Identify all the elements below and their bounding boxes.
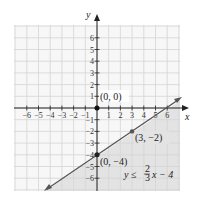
x-tick-label: 2 — [118, 111, 122, 120]
y-tick-label: 1 — [90, 92, 94, 101]
eq-denominator: 3 — [145, 172, 150, 183]
y-axis-label: y — [85, 9, 91, 20]
y-tick-label: 5 — [90, 46, 94, 55]
x-tick-label: −5 — [34, 111, 43, 120]
y-axis-arrow-icon — [94, 14, 100, 21]
y-tick-label: −3 — [85, 139, 94, 148]
x-tick-label: −2 — [69, 111, 78, 120]
x-tick-label: −6 — [23, 111, 32, 120]
x-axis-label: x — [184, 111, 190, 122]
x-tick-label: −4 — [46, 111, 55, 120]
y-tick-label: 3 — [90, 69, 94, 78]
point-3-neg2 — [130, 129, 134, 133]
y-tick-label: −2 — [85, 127, 94, 136]
x-tick-label: 1 — [107, 111, 111, 120]
y-tick-label: −5 — [85, 163, 94, 172]
point-label-origin: (0, 0) — [100, 91, 122, 103]
point-0-neg4 — [95, 152, 100, 157]
y-tick-label: 6 — [90, 34, 94, 43]
x-tick-label: 6 — [165, 111, 169, 120]
eq-lhs: y ≤ — [123, 169, 137, 180]
point-origin — [95, 106, 100, 111]
y-tick-label: 4 — [90, 57, 94, 66]
point-label-0-neg4: (0, −4) — [100, 156, 127, 168]
x-tick-label: 3 — [130, 111, 134, 120]
point-label-3-neg2: (3, −2) — [135, 132, 162, 144]
inequality-graph: −6−5−4−3−2−1123456654321−1−2−3−4−5−6 x y… — [0, 0, 200, 205]
y-tick-label: −6 — [85, 174, 94, 183]
y-tick-label: 2 — [90, 81, 94, 90]
x-tick-label: −3 — [58, 111, 67, 120]
x-tick-label: 4 — [142, 111, 146, 120]
eq-rhs: x − 4 — [151, 169, 173, 180]
y-tick-label: −1 — [85, 116, 94, 125]
